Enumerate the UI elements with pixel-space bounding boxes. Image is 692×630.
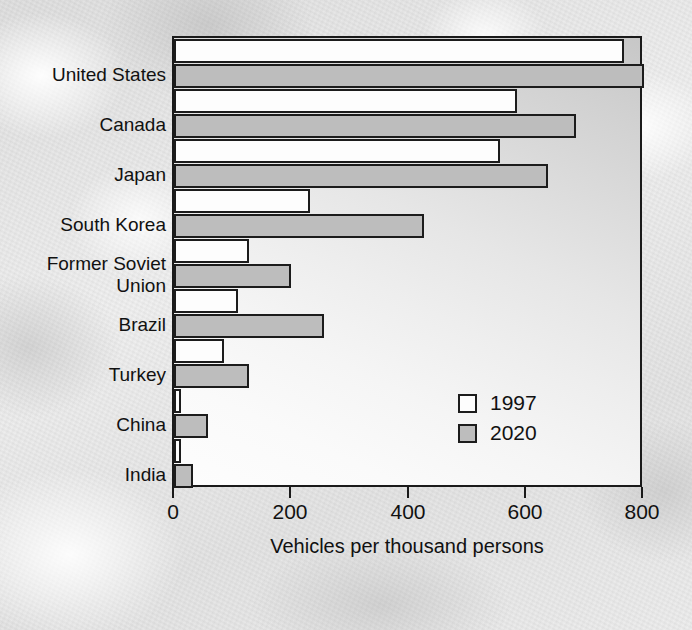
x-tick-label-0: 0 — [138, 500, 208, 524]
x-tick-label-400: 400 — [373, 500, 443, 524]
bar-united-states-2020 — [174, 64, 644, 88]
bar-china-2020 — [174, 414, 208, 438]
plot-area — [172, 36, 642, 487]
bar-former-soviet-union-2020 — [174, 264, 291, 288]
bar-canada-2020 — [174, 114, 576, 138]
legend-item-2020: 2020 — [458, 418, 537, 448]
x-tick-label-800: 800 — [607, 500, 677, 524]
category-label-south-korea: South Korea — [0, 214, 166, 236]
category-label-japan: Japan — [0, 164, 166, 186]
bar-china-1997 — [174, 389, 181, 413]
category-label-china: China — [0, 414, 166, 436]
legend-swatch-1997-icon — [458, 394, 477, 413]
category-label-turkey: Turkey — [0, 364, 166, 386]
category-label-united-states: United States — [0, 64, 166, 86]
x-axis-title: Vehicles per thousand persons — [172, 535, 642, 558]
bar-former-soviet-union-1997 — [174, 239, 249, 263]
bars-layer — [174, 38, 640, 485]
x-tick-400 — [407, 487, 409, 498]
bar-chart: United States Canada Japan South Korea F… — [0, 0, 692, 630]
category-label-former-soviet-union: Former Soviet Union — [0, 253, 166, 297]
legend-swatch-2020-icon — [458, 424, 477, 443]
x-tick-0 — [172, 487, 174, 498]
x-tick-800 — [641, 487, 643, 498]
x-tick-600 — [524, 487, 526, 498]
x-tick-200 — [289, 487, 291, 498]
bar-united-states-1997 — [174, 39, 624, 63]
bar-india-2020 — [174, 464, 193, 488]
category-label-india: India — [0, 464, 166, 486]
bar-japan-1997 — [174, 139, 500, 163]
legend: 1997 2020 — [458, 388, 537, 448]
x-tick-label-600: 600 — [490, 500, 560, 524]
bar-brazil-2020 — [174, 314, 324, 338]
x-tick-label-200: 200 — [255, 500, 325, 524]
category-axis-labels: United States Canada Japan South Korea F… — [0, 36, 166, 487]
bar-turkey-1997 — [174, 339, 224, 363]
category-label-canada: Canada — [0, 114, 166, 136]
bar-india-1997 — [174, 439, 181, 463]
bar-turkey-2020 — [174, 364, 249, 388]
bar-canada-1997 — [174, 89, 517, 113]
bar-south-korea-2020 — [174, 214, 424, 238]
legend-item-1997: 1997 — [458, 388, 537, 418]
category-label-brazil: Brazil — [0, 314, 166, 336]
legend-label-2020: 2020 — [490, 421, 537, 445]
chart-screenshot: United States Canada Japan South Korea F… — [0, 0, 692, 630]
bar-japan-2020 — [174, 164, 548, 188]
legend-label-1997: 1997 — [490, 391, 537, 415]
bar-brazil-1997 — [174, 289, 238, 313]
bar-south-korea-1997 — [174, 189, 310, 213]
